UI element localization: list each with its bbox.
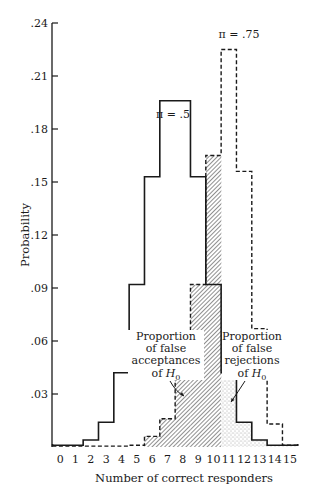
x-tick-label: 11: [222, 453, 236, 466]
y-tick-label: .03: [31, 388, 49, 401]
x-tick-label: 9: [195, 453, 202, 466]
x-tick-label: 10: [206, 453, 220, 466]
x-axis-tick-labels: 0123456789101112131415: [57, 453, 297, 466]
y-tick-label: .24: [31, 17, 49, 30]
x-axis-title: Number of correct responders: [95, 471, 273, 485]
y-tick-label: .09: [31, 282, 49, 295]
x-tick-label: 6: [149, 453, 156, 466]
annotation-line: acceptances: [132, 354, 201, 367]
false-acceptances-region: [206, 156, 222, 448]
y-tick-label: .18: [31, 123, 49, 136]
false-rejections-region: [236, 422, 252, 447]
x-tick-label: 13: [252, 453, 266, 466]
false-acceptances-region: [144, 436, 160, 447]
false-rejections-region: [221, 373, 237, 447]
y-tick-label: .15: [31, 176, 49, 189]
x-tick-label: 0: [57, 453, 64, 466]
y-axis-title: Probability: [18, 203, 32, 267]
series-label-pi-05: π = .5: [156, 108, 190, 121]
x-tick-label: 1: [72, 453, 79, 466]
x-tick-label: 3: [103, 453, 110, 466]
x-tick-label: 2: [87, 453, 94, 466]
y-tick-label: .21: [31, 70, 49, 83]
probability-histogram-chart: .03.06.09.12.15.18.21.24 012345678910111…: [0, 0, 332, 497]
false-acceptances-region: [175, 373, 191, 447]
false-acceptances-region: [160, 419, 176, 447]
x-tick-label: 5: [133, 453, 140, 466]
x-tick-label: 14: [268, 453, 282, 466]
x-tick-label: 8: [179, 453, 186, 466]
x-tick-label: 12: [237, 453, 251, 466]
y-tick-label: .12: [31, 229, 49, 242]
y-axis-ticks: .03.06.09.12.15.18.21.24: [31, 17, 59, 401]
x-tick-label: 7: [164, 453, 171, 466]
x-tick-label: 15: [283, 453, 297, 466]
y-tick-label: .06: [31, 335, 49, 348]
annotation-line: rejections: [224, 354, 279, 367]
false-rejections-region: [252, 440, 268, 447]
x-tick-label: 4: [118, 453, 125, 466]
series-label-pi-075: π = .75: [219, 28, 260, 41]
